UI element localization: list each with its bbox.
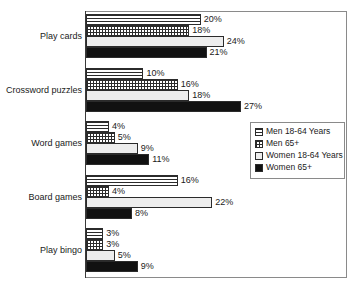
legend-swatch-icon xyxy=(255,140,263,148)
bar-value-label: 16% xyxy=(181,175,199,186)
category-label-play-bingo: Play bingo xyxy=(0,245,82,255)
bar-play-cards-men-18-64-years xyxy=(86,14,201,25)
bar-board-games-men-65- xyxy=(86,186,109,197)
bar-board-games-men-18-64-years xyxy=(86,175,178,186)
bar-word-games-men-65- xyxy=(86,132,115,143)
legend-swatch-icon xyxy=(255,164,263,172)
bar-value-label: 27% xyxy=(244,101,262,112)
bar-chart: Play cardsCrossword puzzlesWord gamesBoa… xyxy=(0,0,357,288)
bar-value-label: 4% xyxy=(112,121,125,132)
bar-value-label: 18% xyxy=(192,25,210,36)
bar-value-label: 24% xyxy=(227,36,245,47)
bar-value-label: 18% xyxy=(192,90,210,101)
bar-value-label: 3% xyxy=(106,239,119,250)
bar-value-label: 10% xyxy=(146,68,164,79)
category-label-play-cards: Play cards xyxy=(0,31,82,41)
legend-item-label: Men 18-64 Years xyxy=(266,127,330,136)
bar-word-games-women-65- xyxy=(86,154,149,165)
category-label-crossword-puzzles: Crossword puzzles xyxy=(0,85,82,95)
category-label-board-games: Board games xyxy=(0,192,82,202)
bar-value-label: 16% xyxy=(181,79,199,90)
legend-item-label: Men 65+ xyxy=(266,139,299,148)
bar-value-label: 5% xyxy=(118,250,131,261)
bar-value-label: 21% xyxy=(210,47,228,58)
legend-swatch-icon xyxy=(255,152,263,160)
bar-play-bingo-women-65- xyxy=(86,261,138,272)
category-label-word-games: Word games xyxy=(0,138,82,148)
bar-crossword-puzzles-men-18-64-years xyxy=(86,68,143,79)
bar-value-label: 3% xyxy=(106,228,119,239)
bar-word-games-women-18-64-years xyxy=(86,143,138,154)
bar-play-cards-women-18-64-years xyxy=(86,36,224,47)
bar-value-label: 8% xyxy=(135,208,148,219)
bar-value-label: 4% xyxy=(112,186,125,197)
legend-item-label: Women 65+ xyxy=(266,163,312,172)
bar-value-label: 9% xyxy=(141,261,154,272)
bar-value-label: 11% xyxy=(152,154,169,165)
legend-item-women-18-64-years[interactable]: Women 18-64 Years xyxy=(255,150,340,161)
legend-item-women-65-[interactable]: Women 65+ xyxy=(255,162,340,173)
legend-item-label: Women 18-64 Years xyxy=(266,151,343,160)
bar-play-cards-men-65- xyxy=(86,25,189,36)
bar-play-cards-women-65- xyxy=(86,47,207,58)
bar-crossword-puzzles-men-65- xyxy=(86,79,178,90)
legend-item-men-18-64-years[interactable]: Men 18-64 Years xyxy=(255,126,340,137)
legend-item-men-65-[interactable]: Men 65+ xyxy=(255,138,340,149)
legend-swatch-icon xyxy=(255,128,263,136)
bar-word-games-men-18-64-years xyxy=(86,121,109,132)
bar-play-bingo-men-18-64-years xyxy=(86,228,103,239)
bar-crossword-puzzles-women-65- xyxy=(86,101,241,112)
bar-play-bingo-women-18-64-years xyxy=(86,250,115,261)
bar-value-label: 5% xyxy=(118,132,131,143)
bar-play-bingo-men-65- xyxy=(86,239,103,250)
bar-value-label: 20% xyxy=(204,14,222,25)
chart-legend: Men 18-64 YearsMen 65+Women 18-64 YearsW… xyxy=(250,122,345,179)
bar-crossword-puzzles-women-18-64-years xyxy=(86,90,189,101)
bar-value-label: 9% xyxy=(141,143,154,154)
bar-board-games-women-18-64-years xyxy=(86,197,212,208)
bar-board-games-women-65- xyxy=(86,208,132,219)
bar-value-label: 22% xyxy=(215,197,233,208)
